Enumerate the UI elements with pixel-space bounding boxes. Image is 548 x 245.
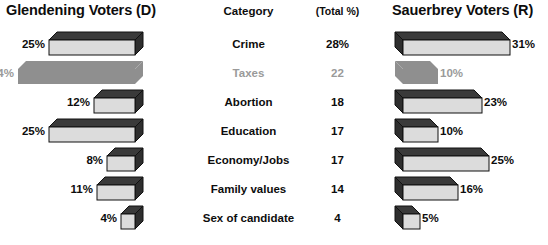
right-bar-group: 10% [394,116,463,145]
category-label: Taxes [196,67,301,79]
right-bar-group: 23% [394,87,507,116]
left-bar-3d [48,31,144,56]
chart-row: 34% Taxes 22 10% [0,58,548,87]
category-label: Family values [196,183,301,195]
chart-row: 25% Education 17 10% [0,116,548,145]
right-bar-3d [394,118,439,143]
right-bar-group: 25% [394,145,514,174]
right-value-label: 16% [460,183,483,195]
tornado-bar-chart: Glendening Voters (D) Category (Total %)… [0,0,548,245]
chart-row: 8% Economy/Jobs 17 25% [0,145,548,174]
total-percent-label: 18 [300,96,375,108]
category-label: Education [196,125,301,137]
left-value-label: 25% [22,38,45,50]
left-value-label: 34% [0,67,14,79]
right-series-title: Sauerbrey Voters (R) [392,2,548,18]
left-bar-3d [93,89,144,114]
right-value-label: 10% [440,125,463,137]
right-value-label: 23% [484,96,507,108]
left-bar-group: 4% [100,203,144,232]
left-bar-3d [96,176,144,201]
total-percent-label: 22 [300,67,375,79]
left-bar-group: 12% [67,87,144,116]
category-label: Sex of candidate [196,212,301,224]
right-bar-3d [394,205,421,230]
total-percent-label: 17 [300,125,375,137]
right-bar-3d [394,60,439,85]
left-value-label: 11% [71,183,93,195]
left-value-label: 4% [100,212,117,224]
right-value-label: 31% [512,38,535,50]
left-bar-group: 25% [22,29,144,58]
right-bar-3d [394,147,490,172]
category-label: Abortion [196,96,301,108]
right-bar-3d [394,89,483,114]
left-value-label: 8% [86,154,103,166]
left-bar-3d [120,205,144,230]
chart-row: 25% Crime 28% 31% [0,29,548,58]
left-bar-group: 8% [86,145,144,174]
right-bar-group: 31% [394,29,535,58]
category-label: Crime [196,38,301,50]
total-column-title: (Total %) [300,5,375,17]
category-column-title: Category [196,5,301,17]
right-bar-3d [394,31,511,56]
right-bar-3d [394,176,459,201]
right-bar-group: 16% [394,174,483,203]
total-percent-label: 28% [300,38,375,50]
chart-header: Glendening Voters (D) Category (Total %)… [0,0,548,26]
left-bar-group: 34% [0,58,144,87]
right-bar-group: 10% [394,58,463,87]
chart-row: 4% Sex of candidate 4 5% [0,203,548,232]
total-percent-label: 17 [300,154,375,166]
left-bar-group: 25% [22,116,144,145]
chart-row: 11% Family values 14 16% [0,174,548,203]
left-bar-group: 11% [71,174,144,203]
total-percent-label: 14 [300,183,375,195]
category-label: Economy/Jobs [196,154,301,166]
right-bar-group: 5% [394,203,439,232]
total-percent-label: 4 [300,212,375,224]
right-value-label: 5% [422,212,439,224]
left-bar-3d [106,147,144,172]
left-value-label: 25% [22,125,45,137]
left-series-title: Glendening Voters (D) [6,2,186,18]
left-bar-3d [48,118,144,143]
right-value-label: 25% [491,154,514,166]
right-value-label: 10% [440,67,463,79]
chart-row: 12% Abortion 18 23% [0,87,548,116]
left-bar-3d [17,60,144,85]
left-value-label: 12% [67,96,90,108]
